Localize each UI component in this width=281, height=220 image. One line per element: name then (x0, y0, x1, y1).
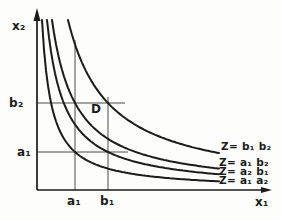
curves-canvas (0, 0, 281, 220)
level-curve-1 (68, 20, 219, 153)
isoquant-figure: x₂ x₁ b₂ a₁ a₁ b₁ D Z= b₁ b₂ Z= a₁ b₂ Z=… (0, 0, 281, 220)
curve-label-b1b2: Z= b₁ b₂ (221, 141, 271, 152)
y-axis-arrowhead (34, 8, 41, 21)
y-tick-b2: b₂ (9, 97, 23, 109)
y-axis-label: x₂ (12, 20, 26, 32)
x-axis-arrowhead (261, 187, 272, 193)
x-tick-a1: a₁ (67, 195, 81, 207)
y-tick-a1: a₁ (17, 146, 31, 158)
level-curve-2 (52, 20, 219, 169)
x-axis-label: x₁ (255, 196, 269, 208)
curve-label-a1a2: Z= a₁ a₂ (219, 175, 269, 186)
level-curve-4 (42, 20, 219, 181)
x-tick-b1: b₁ (100, 195, 114, 207)
point-d-label: D (91, 103, 101, 115)
